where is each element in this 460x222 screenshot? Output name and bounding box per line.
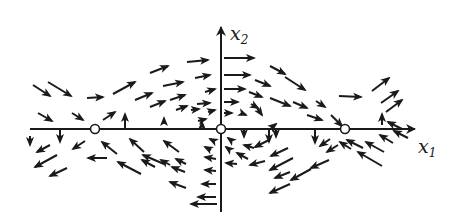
vector-arrow [191,109,199,110]
vector-arrow [35,155,57,167]
vector-arrow [164,141,179,152]
vector-arrow [293,102,307,108]
equilibrium-point [217,125,226,134]
vector-arrow [270,98,290,106]
vector-arrow [228,138,232,141]
vector-arrow [327,145,338,152]
vector-arrow [187,60,208,62]
vector-arrow [73,141,85,149]
vector-arrow [197,103,210,104]
vector-arrow [270,158,293,170]
vector-arrow [381,91,398,103]
vector-arrow [33,85,50,96]
vector-arrow [237,153,248,159]
vector-arrow [176,159,186,164]
vector-arrow [118,162,141,174]
vector-arrow [251,104,258,108]
vector-arrow [102,142,117,154]
x1-label-text: x [418,135,429,157]
vector-arrow [38,113,52,121]
vector-arrow [226,163,237,164]
x2-axis-label: x2 [230,24,248,46]
vector-arrow [142,160,155,167]
vector-arrow [331,115,342,126]
vector-arrow [198,119,206,121]
vector-arrow [205,157,216,159]
vector-arrow [311,160,329,168]
equilibrium-point [91,125,100,134]
vector-arrow [210,139,214,141]
vector-arrow [340,142,351,149]
x1-axis-label: x1 [418,137,436,159]
vector-arrow [372,78,389,91]
vector-arrow [320,139,330,146]
vector-arrow [271,148,288,156]
vector-arrow [257,108,262,115]
vector-arrow [50,168,67,176]
vector-arrow [150,101,165,107]
vector-arrow [366,142,384,152]
vector-arrow [250,161,265,165]
vector-arrow [285,77,305,90]
vector-arrow [255,140,269,147]
x1-label-subscript: 1 [429,146,437,160]
vector-arrow [113,82,135,94]
vector-arrow [271,124,276,128]
vector-arrow [307,115,322,120]
vector-arrow [394,131,408,138]
vector-arrow [205,89,215,92]
vector-arrow [170,95,185,100]
vector-arrow [270,66,285,74]
vector-arrow [386,100,402,112]
vector-arrow [87,97,103,98]
vector-arrow [37,145,50,152]
vector-arrow [275,172,290,178]
vector-arrow [249,92,262,97]
vector-arrow [316,101,325,107]
vector-arrow [205,147,211,150]
x2-label-subscript: 2 [241,33,249,47]
vector-arrow [195,75,210,78]
equilibrium-point [341,125,350,134]
vector-arrow [339,96,361,97]
vector-arrow [172,167,185,172]
vector-arrow [380,135,393,143]
vector-arrow [388,122,402,129]
vector-arrow [358,152,382,166]
vector-arrow [150,66,168,73]
vector-arrow [130,139,144,152]
vector-arrow [103,112,115,120]
vector-arrow [135,93,152,100]
vector-arrow [163,82,183,86]
vector-arrow [291,169,311,180]
vector-arrow [170,182,186,188]
vector-arrow [241,113,246,115]
x2-label-text: x [230,22,241,44]
vector-arrow [176,106,187,110]
vector-arrow [226,147,230,150]
vector-arrow [255,80,270,86]
vector-arrow [48,82,71,96]
vector-arrow [205,170,216,171]
vector-arrow [270,184,290,193]
vector-arrow [208,110,215,112]
vector-arrow [244,145,254,148]
vector-arrow [72,113,83,120]
